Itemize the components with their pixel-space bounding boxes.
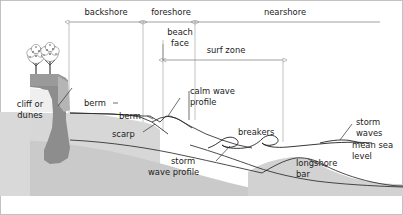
leader-calm-wave-profile: [168, 98, 180, 116]
label-nearshore: nearshore: [264, 7, 306, 17]
label-foreshore: foreshore: [151, 7, 191, 17]
diagram-canvas: backshore foreshore nearshore beach face…: [0, 0, 403, 215]
label-berm-lower: berm: [119, 111, 141, 121]
label-longshore-bar-line2: bar: [296, 169, 310, 179]
label-cliff-or-dunes-line2: dunes: [17, 110, 42, 120]
leader-storm-waves: [340, 124, 352, 140]
label-storm-wave-profile-line2: wave profile: [148, 167, 199, 177]
left-ground: [0, 112, 30, 196]
label-calm-wave-profile-line2: profile: [190, 97, 216, 107]
label-storm-waves-line1: storm: [356, 117, 380, 127]
label-surf-zone: surf zone: [207, 45, 246, 55]
label-mean-sea-level-line1: mean sea: [352, 140, 393, 150]
label-backshore: backshore: [84, 7, 127, 17]
label-beach-face-line1: beach: [167, 27, 193, 37]
label-longshore-bar-line1: longshore: [296, 158, 337, 168]
label-storm-waves-line2: waves: [356, 128, 382, 138]
tree-cluster: [27, 42, 59, 74]
label-storm-wave-profile-line1: storm: [171, 156, 195, 166]
beach-profile-diagram: backshore foreshore nearshore beach face…: [0, 0, 403, 215]
label-cliff-or-dunes-line1: cliff or: [17, 99, 44, 109]
label-mean-sea-level-line2: level: [352, 151, 372, 161]
water-waves: [208, 135, 372, 148]
tree-right-icon: [41, 42, 59, 74]
wave-surface-line: [208, 135, 372, 148]
label-scarp: scarp: [112, 129, 135, 139]
label-calm-wave-profile-line1: calm wave: [190, 86, 235, 96]
label-beach-face-line2: face: [171, 38, 189, 48]
label-berm-upper: berm: [84, 98, 106, 108]
label-breakers: breakers: [238, 127, 274, 137]
